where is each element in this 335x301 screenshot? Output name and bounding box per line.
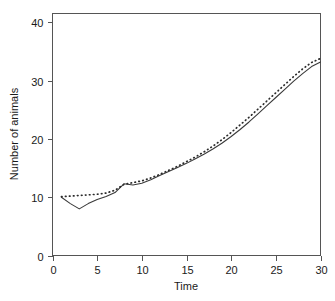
chart-container: 010203040 051015202530 Time Number of an…	[0, 0, 335, 301]
y-tick-label: 40	[31, 17, 43, 29]
y-axis-ticks	[48, 23, 53, 257]
plot-frame	[53, 14, 321, 256]
x-tick-label: 30	[315, 264, 327, 276]
series-line-fitted	[61, 58, 320, 196]
x-tick-label: 10	[136, 264, 148, 276]
series-group	[61, 58, 320, 208]
y-axis-title: Number of animals	[8, 87, 20, 180]
x-tick-label: 15	[181, 264, 193, 276]
y-tick-label: 0	[37, 251, 43, 263]
x-axis-tick-labels: 051015202530	[50, 264, 327, 276]
series-line-observed	[61, 62, 320, 209]
x-tick-label: 0	[50, 264, 56, 276]
x-tick-label: 25	[270, 264, 282, 276]
y-tick-label: 30	[31, 76, 43, 88]
y-tick-label: 20	[31, 134, 43, 146]
y-axis-tick-labels: 010203040	[31, 17, 43, 263]
x-tick-label: 20	[225, 264, 237, 276]
y-tick-label: 10	[31, 192, 43, 204]
chart-plot: 010203040 051015202530 Time Number of an…	[0, 0, 335, 301]
frame-box	[53, 14, 321, 256]
x-tick-label: 5	[94, 264, 100, 276]
x-axis-title: Time	[174, 280, 198, 292]
x-axis-ticks	[54, 256, 322, 261]
